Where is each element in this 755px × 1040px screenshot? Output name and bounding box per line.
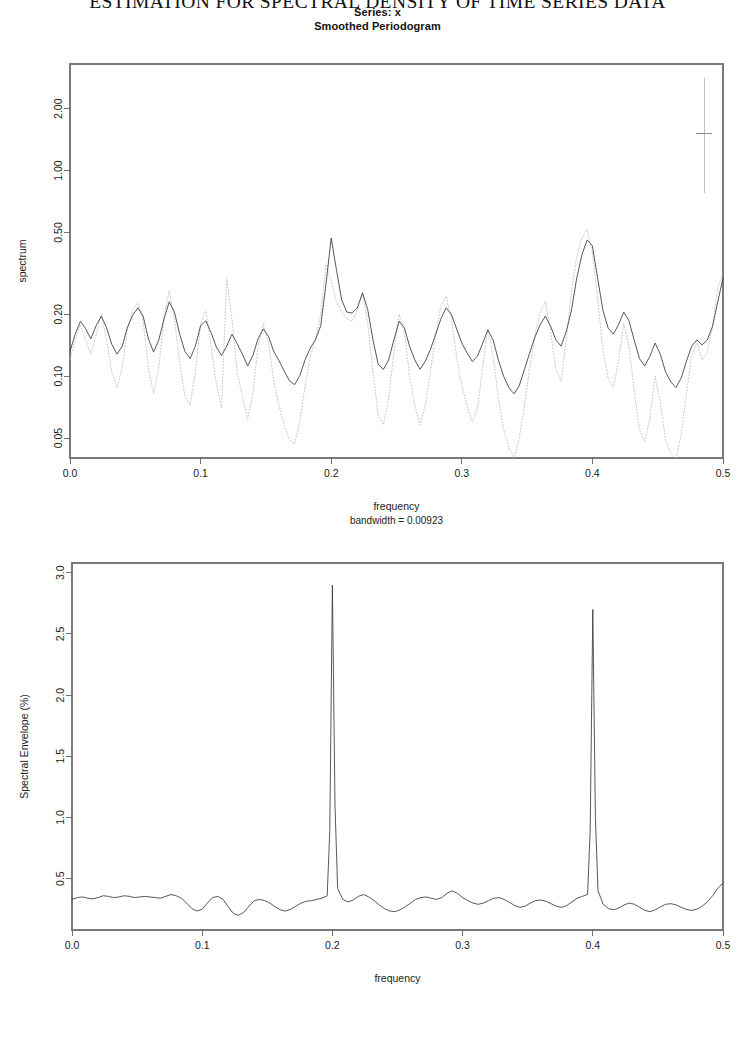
y-tick-label: 0.05 [52, 428, 64, 449]
x-tick-label: 0.3 [455, 939, 470, 951]
x-tick-label: 0.3 [454, 467, 469, 479]
y-tick-label: 2.5 [54, 627, 66, 642]
x-tick-label: 0.1 [195, 939, 210, 951]
x-tick-label: 0.2 [325, 939, 340, 951]
x-tick-label: 0.1 [193, 467, 208, 479]
x-axis-title: frequency [373, 500, 420, 512]
x-tick-label: 0.0 [63, 467, 78, 479]
y-tick-label: 2.00 [52, 98, 64, 119]
series-line-solid [72, 585, 723, 915]
figure-title-line2: Smoothed Periodogram [0, 20, 755, 32]
x-tick-label: 0.0 [65, 939, 80, 951]
y-axis-title: Spectral Envelope (%) [18, 694, 30, 798]
y-tick-label: 2.0 [54, 688, 66, 703]
spectral-envelope-panel: 0.51.01.52.02.53.00.00.10.20.30.40.5freq… [0, 525, 755, 1025]
x-tick-label: 0.5 [716, 939, 731, 951]
bandwidth-note: bandwidth = 0.00923 [350, 515, 444, 524]
plot-box [72, 563, 723, 930]
y-tick-label: 1.00 [52, 160, 64, 181]
figure-page: ESTIMATION FOR SPECTRAL DENSITY OF TIME … [0, 0, 755, 1040]
spectral-envelope-chart: 0.51.01.52.02.53.00.00.10.20.30.40.5freq… [0, 525, 755, 1025]
x-tick-label: 0.5 [716, 467, 731, 479]
series-line-solid [70, 238, 723, 394]
y-tick-label: 3.0 [54, 565, 66, 580]
y-tick-label: 0.20 [52, 304, 64, 325]
smoothed-periodogram-chart: 2.001.000.500.200.100.050.00.10.20.30.40… [0, 34, 755, 524]
y-tick-label: 0.5 [54, 871, 66, 886]
y-tick-label: 0.10 [52, 366, 64, 387]
y-tick-label: 0.50 [52, 222, 64, 243]
x-tick-label: 0.2 [324, 467, 339, 479]
y-tick-label: 1.5 [54, 749, 66, 764]
y-tick-label: 1.0 [54, 810, 66, 825]
series-line-dotted [70, 229, 723, 458]
x-tick-label: 0.4 [585, 939, 600, 951]
figure-title-line1: Series: x [0, 6, 755, 18]
x-axis-title: frequency [374, 972, 421, 984]
x-tick-label: 0.4 [585, 467, 600, 479]
smoothed-periodogram-panel: 2.001.000.500.200.100.050.00.10.20.30.40… [0, 34, 755, 524]
y-axis-title: spectrum [16, 239, 28, 282]
plot-box [70, 64, 723, 458]
